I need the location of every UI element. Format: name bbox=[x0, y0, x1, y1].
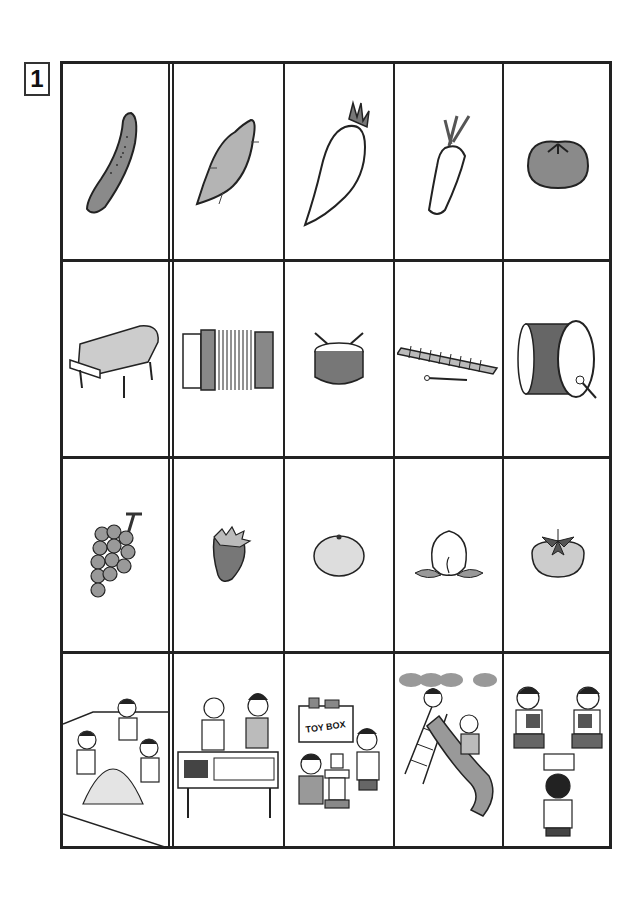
drawing-scene-illustration bbox=[174, 654, 283, 849]
grapes-icon bbox=[86, 510, 146, 600]
picture-grid: cucumber sweet potato daikon radish carr… bbox=[60, 61, 612, 849]
strawberry-icon bbox=[204, 525, 254, 585]
cell-sandbox-scene[interactable]: children playing in sandbox bbox=[63, 654, 168, 849]
accordion-icon bbox=[179, 324, 279, 394]
card-game-scene-illustration bbox=[504, 654, 612, 849]
peach-icon bbox=[411, 525, 487, 585]
carrot-icon bbox=[409, 102, 489, 222]
cell-snare-drum[interactable]: snare drum bbox=[285, 262, 393, 456]
cell-persimmon[interactable]: persimmon bbox=[504, 459, 612, 651]
cell-toy-blocks-scene[interactable]: children building with toy blocks TOY BO… bbox=[285, 654, 393, 849]
cell-slide-scene[interactable]: children on slide bbox=[395, 654, 502, 849]
xylophone-icon bbox=[397, 334, 501, 384]
cell-tomato[interactable]: tomato bbox=[504, 64, 612, 259]
cell-drawing-scene[interactable]: children drawing at table bbox=[174, 654, 283, 849]
grand-piano-icon bbox=[66, 314, 166, 404]
persimmon-icon bbox=[526, 527, 590, 583]
toy-blocks-scene-illustration: TOY BOX bbox=[285, 654, 393, 849]
cucumber-icon bbox=[81, 107, 151, 217]
sweet-potato-icon bbox=[189, 112, 269, 212]
cell-strawberry[interactable]: strawberry bbox=[174, 459, 283, 651]
cell-grapes[interactable]: grapes bbox=[63, 459, 168, 651]
slide-scene-illustration bbox=[395, 654, 502, 849]
sandbox-scene-illustration bbox=[63, 654, 168, 849]
cell-card-game-scene[interactable]: children playing cards bbox=[504, 654, 612, 849]
question-number: 1 bbox=[30, 65, 43, 93]
mandarin-orange-icon bbox=[311, 532, 367, 578]
cell-peach[interactable]: peach bbox=[395, 459, 502, 651]
question-number-box: 1 bbox=[24, 62, 50, 96]
cell-daikon[interactable]: daikon radish bbox=[285, 64, 393, 259]
cell-cucumber[interactable]: cucumber bbox=[63, 64, 168, 259]
cell-grand-piano[interactable]: grand piano bbox=[63, 262, 168, 456]
bass-drum-icon bbox=[516, 314, 600, 404]
cell-accordion[interactable]: accordion bbox=[174, 262, 283, 456]
cell-bass-drum[interactable]: bass drum bbox=[504, 262, 612, 456]
cell-carrot[interactable]: carrot bbox=[395, 64, 502, 259]
tomato-icon bbox=[523, 132, 593, 192]
cell-sweet-potato[interactable]: sweet potato bbox=[174, 64, 283, 259]
cell-mandarin-orange[interactable]: mandarin orange bbox=[285, 459, 393, 651]
snare-drum-icon bbox=[309, 329, 369, 389]
daikon-icon bbox=[299, 97, 379, 227]
cell-xylophone[interactable]: xylophone bbox=[395, 262, 502, 456]
